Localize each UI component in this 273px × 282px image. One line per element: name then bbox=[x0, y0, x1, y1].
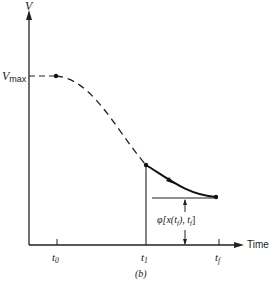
tc-close: ] bbox=[192, 214, 195, 225]
x-axis-label: Time bbox=[247, 240, 269, 250]
tc-part2: ), t bbox=[179, 214, 190, 225]
arrow-up-icon bbox=[183, 199, 187, 205]
arrow-down-icon bbox=[183, 239, 187, 245]
y-axis-label: V bbox=[25, 0, 32, 12]
dashed-curve bbox=[56, 76, 146, 165]
value-function-diagram bbox=[0, 0, 273, 282]
tick-sub: 0 bbox=[55, 256, 59, 265]
solid-curve bbox=[146, 165, 216, 197]
tc-part1: φ[x(t bbox=[157, 214, 177, 225]
x-axis-arrow-icon bbox=[234, 242, 244, 248]
tf-point bbox=[214, 195, 218, 199]
vmax-sub: max bbox=[9, 74, 26, 84]
t1-point bbox=[144, 163, 148, 167]
tick-sub: 1 bbox=[144, 256, 148, 265]
terminal-cost-label: φ[x(tf), tf] bbox=[157, 215, 195, 227]
tick-label-t0: t0 bbox=[52, 252, 59, 265]
tick-label-t1: t1 bbox=[141, 252, 148, 265]
vmax-label: Vmax bbox=[2, 70, 26, 84]
vmax-point bbox=[54, 74, 58, 78]
figure-caption: (b) bbox=[135, 269, 147, 279]
tick-label-tf: tf bbox=[215, 252, 220, 265]
tick-sub: f bbox=[218, 256, 220, 265]
